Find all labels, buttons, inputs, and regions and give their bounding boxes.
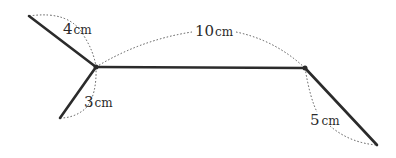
label-upper-left: 4cm [63,20,92,38]
label-right: 5cm [310,111,340,129]
label-lower-left: 3cm [84,93,113,111]
segment-right [305,68,377,145]
segment-diagram: 4cm 3cm 10cm 5cm [0,0,396,158]
label-middle: 10cm [195,22,234,40]
joint-left [94,65,99,70]
segment-middle [96,67,305,68]
joint-right [303,66,308,71]
